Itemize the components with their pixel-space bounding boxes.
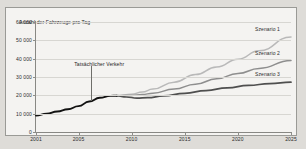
y-tick-label: 20 000: [16, 92, 32, 98]
series-label-szenario-1: Szenario 1: [255, 26, 280, 32]
x-tick-label: 2025: [285, 136, 297, 142]
x-tick-label: 2010: [126, 136, 138, 142]
gridline-y: [36, 22, 291, 23]
gridline-y: [36, 77, 291, 78]
gridline-y: [36, 95, 291, 96]
x-tick-mark: [185, 132, 186, 135]
y-tick-mark: [33, 59, 36, 60]
gridline-y: [36, 40, 291, 41]
x-tick-mark: [36, 132, 37, 135]
plot-area: 010 00020 00030 00040 00050 00060 000200…: [36, 22, 291, 132]
y-tick-mark: [33, 22, 36, 23]
x-tick-mark: [238, 132, 239, 135]
series-label-szenario-2: Szenario 2: [255, 50, 280, 56]
y-tick-mark: [33, 77, 36, 78]
y-tick-label: 30 000: [16, 74, 32, 80]
chart-frame: Anzahl der Fahrzeuge pro Tag 010 00020 0…: [5, 7, 297, 136]
x-tick-mark: [291, 132, 292, 135]
figure-root: Anzahl der Fahrzeuge pro Tag 010 00020 0…: [0, 0, 306, 149]
gridline-y: [36, 59, 291, 60]
y-tick-label: 40 000: [16, 56, 32, 62]
actual-traffic-leader-line: [91, 66, 92, 101]
series-line-szenario-1: [117, 37, 291, 96]
x-tick-label: 2020: [232, 136, 244, 142]
y-tick-mark: [33, 95, 36, 96]
x-tick-mark: [132, 132, 133, 135]
x-tick-label: 2001: [30, 136, 42, 142]
y-tick-mark: [33, 40, 36, 41]
y-tick-mark: [33, 114, 36, 115]
x-tick-label: 2005: [73, 136, 85, 142]
series-label-szenario-3: Szenario 3: [255, 71, 280, 77]
series-line-tats-chlicher-verkehr: [36, 96, 117, 116]
y-tick-label: 0: [29, 129, 32, 135]
actual-traffic-annotation: Tatsächlicher Verkehr: [74, 61, 124, 67]
y-tick-label: 60 000: [16, 19, 32, 25]
y-tick-label: 50 000: [16, 37, 32, 43]
x-tick-label: 2015: [179, 136, 191, 142]
x-tick-mark: [79, 132, 80, 135]
y-tick-label: 10 000: [16, 111, 32, 117]
gridline-y: [36, 114, 291, 115]
x-axis-line: [35, 132, 292, 133]
